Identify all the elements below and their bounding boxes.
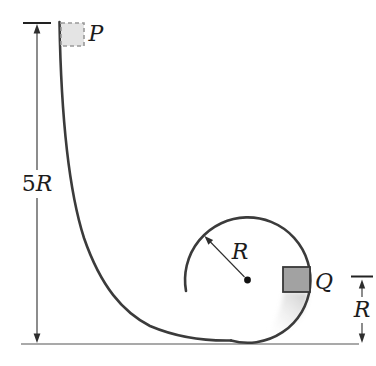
label-loop-radius: R [232,241,249,263]
block-q [283,267,310,292]
physics-loop-diagram: P 5R R Q R [0,0,376,366]
height-down-arrowhead-icon [34,334,41,344]
label-5r-digit: 5 [22,171,36,196]
label-5r-letter: R [36,171,53,196]
q-height-down-arrowhead-icon [359,334,365,344]
track-curve [60,22,232,341]
block-p [61,23,84,46]
height-up-arrowhead-icon [34,24,41,34]
label-p: P [89,23,104,45]
label-q: Q [315,271,333,293]
loop-center-dot [244,277,251,284]
q-height-up-arrowhead-icon [359,280,365,289]
diagram-canvas [0,0,376,366]
label-5r: 5R [22,173,53,195]
label-q-height: R [354,299,371,321]
